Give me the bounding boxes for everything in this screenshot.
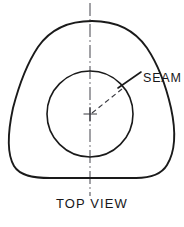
top-view-drawing: SEAM TOP VIEW	[0, 0, 184, 227]
radius-dashed-line	[92, 89, 122, 113]
seam-leader-line	[118, 72, 141, 88]
outer-contour-path	[9, 21, 174, 178]
center-mark-icon	[84, 107, 98, 122]
top-view-label: TOP VIEW	[56, 196, 128, 211]
technical-drawing-canvas: SEAM TOP VIEW	[0, 0, 184, 227]
seam-label: SEAM	[143, 71, 182, 85]
